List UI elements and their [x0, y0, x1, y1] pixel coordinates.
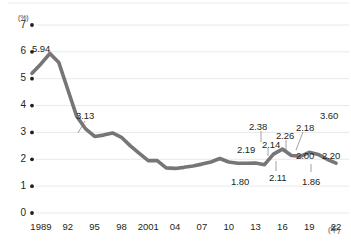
data-point-label: 2.19 — [237, 144, 255, 155]
y-axis-tick-label: 1 — [8, 180, 26, 191]
y-axis-tick-label: 6 — [8, 45, 26, 56]
data-point-label: 2.38 — [249, 121, 267, 132]
data-point-label: 1.86 — [302, 176, 320, 187]
data-point-label: 3.13 — [76, 110, 94, 121]
y-axis-tick-marker — [30, 23, 34, 27]
y-axis-tick-label: 3 — [8, 126, 26, 137]
y-axis-tick-label: 5 — [8, 72, 26, 83]
data-point-label: 2.11 — [269, 172, 286, 183]
y-axis-tick-marker — [30, 77, 34, 81]
y-axis-tick-label: 0 — [8, 207, 26, 218]
y-axis-tick-marker — [30, 211, 34, 215]
data-point-label: 2.20 — [322, 150, 340, 161]
label-leader-line — [296, 132, 303, 150]
data-point-label: 1.80 — [231, 176, 249, 187]
data-point-label: 2.00 — [296, 150, 314, 161]
data-point-label: 2.18 — [296, 122, 314, 133]
y-axis-tick-label: 4 — [8, 99, 26, 110]
data-point-label: 5.94 — [32, 43, 50, 54]
y-axis-tick-label: 2 — [8, 153, 26, 164]
data-point-label: 3.60 — [320, 110, 338, 121]
y-axis-tick-marker — [30, 131, 34, 135]
y-axis-tick-marker — [30, 157, 34, 161]
y-axis-tick-marker — [30, 104, 34, 108]
y-axis-tick-marker — [30, 184, 34, 188]
data-point-label: 2.26 — [276, 130, 294, 141]
line-chart: (%) 01234567 198992959820010407101316192… — [0, 0, 351, 245]
y-axis-tick-label: 7 — [8, 19, 26, 30]
x-axis-unit-label: (年) — [328, 223, 340, 234]
